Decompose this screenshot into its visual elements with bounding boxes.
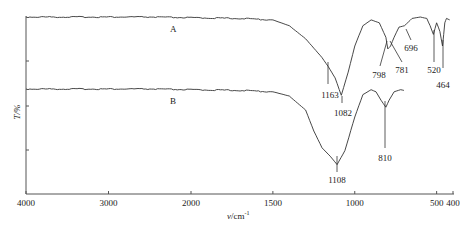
- x-tick-label: 4000: [17, 198, 36, 208]
- ir-spectrum-chart: 40003000200015001000500400 1163108279878…: [0, 0, 473, 229]
- x-tick-label: 400: [446, 198, 460, 208]
- peak-label: 1082: [334, 108, 352, 118]
- axes: 40003000200015001000500400: [17, 16, 460, 208]
- peak-label: 798: [372, 70, 386, 80]
- x-axis-label-unit: /cm: [231, 211, 245, 221]
- y-axis-label: T/%: [12, 104, 22, 119]
- x-axis-label-exp: -1: [245, 210, 250, 216]
- x-tick-label: 1000: [346, 198, 365, 208]
- peak-label: 696: [404, 43, 418, 53]
- peak-leader-line: [380, 41, 387, 66]
- x-tick-label: 500: [430, 198, 444, 208]
- x-axis-label: v/cm-1: [227, 210, 250, 221]
- curve-label-a: A: [170, 24, 177, 34]
- peak-label: 781: [395, 65, 409, 75]
- x-tick-label: 2000: [182, 198, 201, 208]
- curve-label-b: B: [170, 96, 176, 106]
- peak-annotations-a: 11631082798781696520464: [321, 29, 450, 118]
- peak-label: 1163: [321, 90, 339, 100]
- peak-leader-line: [390, 41, 402, 62]
- peak-leader-line: [406, 29, 411, 40]
- x-tick-label: 1500: [264, 198, 283, 208]
- peak-label: 810: [378, 153, 392, 163]
- x-tick-label: 3000: [100, 198, 119, 208]
- peak-label: 520: [427, 65, 441, 75]
- curve-b: [26, 88, 404, 164]
- curve-a: [26, 16, 450, 95]
- peak-label: 464: [436, 80, 450, 90]
- peak-label: 1108: [328, 175, 346, 185]
